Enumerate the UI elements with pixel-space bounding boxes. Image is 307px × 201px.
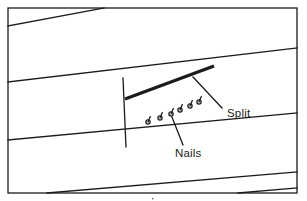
figure-root: Split Nails: [0, 0, 307, 201]
scan-speck: [152, 198, 153, 199]
diagram-background: [0, 0, 307, 201]
nails-label: Nails: [175, 147, 202, 159]
split-label: Split: [227, 107, 251, 119]
deck-split-diagram: Split Nails: [0, 0, 307, 201]
